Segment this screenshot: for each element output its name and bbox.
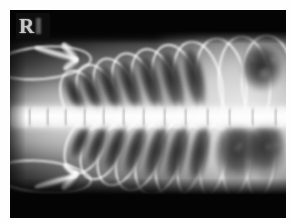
gas-pocket-mottle xyxy=(270,56,276,62)
film-frame: R xyxy=(10,10,286,218)
vertebra xyxy=(67,107,84,127)
laterality-marker: R xyxy=(16,13,50,39)
vertebra xyxy=(145,107,164,127)
gas-pocket-mottle xyxy=(274,142,280,148)
vertebra xyxy=(31,107,47,127)
laterality-marker-letter: R xyxy=(16,16,34,37)
collimation-bottom xyxy=(10,178,286,218)
vertebra xyxy=(254,107,275,127)
gas-pocket-mottle xyxy=(265,143,272,150)
gas-pocket-mottle xyxy=(223,132,228,137)
vertebra xyxy=(187,107,207,127)
vertebra xyxy=(49,107,65,127)
radiograph-figure: R xyxy=(0,0,291,223)
vertebra xyxy=(209,107,229,127)
vertebra xyxy=(166,107,185,127)
laterality-marker-tick xyxy=(36,18,41,34)
vertebra xyxy=(231,107,252,127)
gas-pocket-mottle xyxy=(237,142,243,148)
gas-pocket-mottle xyxy=(250,56,255,61)
gas-pocket-mottle xyxy=(276,156,285,165)
radiograph-image: R xyxy=(10,10,286,218)
vertebra xyxy=(277,107,286,127)
vertebra xyxy=(125,107,143,127)
collimation-left xyxy=(10,10,26,218)
gas-pocket-mottle xyxy=(259,69,270,80)
collimation-top xyxy=(10,10,286,44)
vertebra xyxy=(86,107,103,127)
vertebra xyxy=(105,107,123,127)
